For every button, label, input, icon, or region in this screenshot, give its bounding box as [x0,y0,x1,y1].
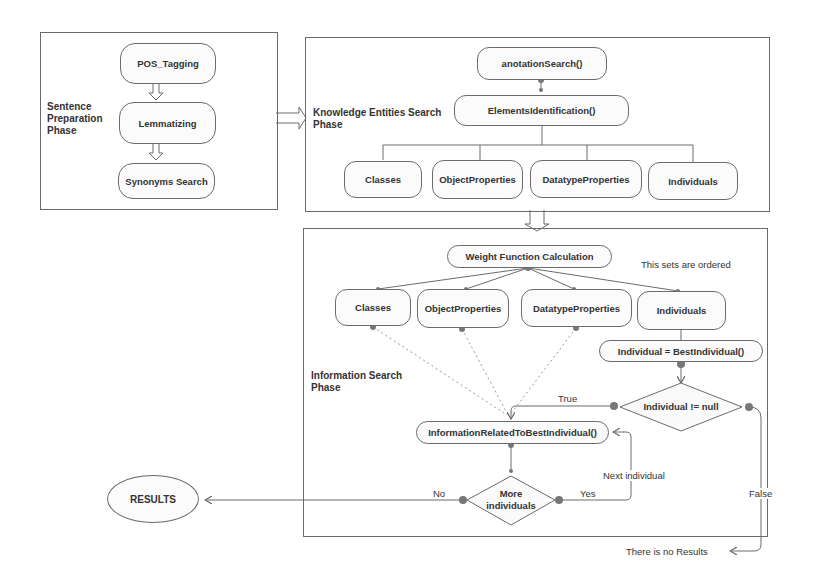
label-line: Sentence [47,101,103,113]
lemmatizing-node: Lemmatizing [119,102,216,144]
label-line: Phase [311,382,402,394]
entity-object-properties-node: ObjectProperties [432,160,523,199]
set-classes-node: Classes [335,289,411,326]
label-line: Phase [47,125,103,137]
best-individual-node: Individual = BestIndividual() [599,340,763,362]
true-edge-label: True [558,393,577,404]
set-individuals-node: Individuals [637,291,726,330]
label-line: Phase [313,119,441,131]
knowledge-entities-label: Knowledge Entities Search Phase [313,107,441,131]
results-terminal: RESULTS [107,475,199,523]
information-related-node: InformationRelatedToBestIndividual() [416,421,609,444]
synonyms-search-node: Synonyms Search [118,163,215,199]
label-line: Information Search [311,370,402,382]
next-individual-label: Next individual [603,470,665,481]
sentence-preparation-label: Sentence Preparation Phase [47,101,103,137]
no-results-label: There is no Results [626,546,708,557]
individual-not-null-decision: Individual != null [631,401,731,413]
false-edge-label: False [749,488,772,499]
elements-identification-node: ElementsIdentification() [454,95,629,126]
no-edge-label: No [433,488,445,499]
label-line: Preparation [47,113,103,125]
entity-individuals-node: Individuals [648,162,738,200]
yes-edge-label: Yes [580,488,596,499]
decision-line: individuals [476,500,546,512]
sets-ordered-note: This sets are ordered [641,259,731,270]
more-individuals-decision: More individuals [476,488,546,512]
entity-classes-node: Classes [344,161,422,198]
pos-tagging-node: POS_Tagging [120,43,216,84]
anotation-search-node: anotationSearch() [477,47,607,80]
weight-function-node: Weight Function Calculation [447,245,612,268]
entity-datatype-properties-node: DatatypeProperties [530,160,642,198]
label-line: Knowledge Entities Search [313,107,441,119]
set-datatype-properties-node: DatatypeProperties [521,289,632,327]
set-object-properties-node: ObjectProperties [417,289,509,328]
decision-line: More [476,488,546,500]
information-search-label: Information Search Phase [311,370,402,394]
